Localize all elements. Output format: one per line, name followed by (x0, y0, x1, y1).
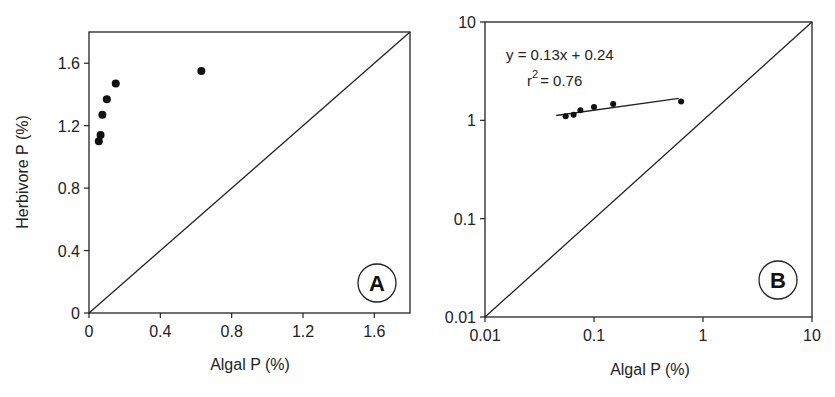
y-tick-label: 0 (71, 305, 80, 322)
data-point (610, 101, 616, 107)
x-tick-label: 0.4 (149, 323, 171, 340)
x-tick-label: 10 (803, 327, 821, 344)
data-point (678, 99, 684, 105)
data-point (112, 80, 120, 88)
x-tick-label: 1.2 (292, 323, 314, 340)
x-tick-label: 0.1 (583, 327, 605, 344)
y-tick-label: 0.4 (58, 243, 80, 260)
x-axis-title: Algal P (%) (210, 356, 290, 373)
y-tick-label: 1 (467, 112, 476, 129)
y-tick-label: 1.2 (58, 118, 80, 135)
y-tick-label: 10 (458, 14, 476, 31)
data-points (563, 99, 684, 120)
data-point (98, 111, 106, 119)
data-points (95, 67, 206, 145)
y-tick-label: 0.1 (454, 211, 476, 228)
data-point (103, 95, 111, 103)
figure: 00.40.81.21.6 00.40.81.21.6 Algal P (%) … (0, 0, 835, 397)
y-tick-label: 0.8 (58, 180, 80, 197)
data-point (197, 67, 205, 75)
y-tick-label: 1.6 (58, 55, 80, 72)
one-to-one-line (485, 22, 812, 317)
data-point (577, 107, 583, 113)
x-axis-title: Algal P (%) (610, 361, 690, 378)
regression-equation: y = 0.13x + 0.24 (506, 46, 614, 63)
data-point (571, 112, 577, 118)
r-squared: r2= 0.76 (527, 68, 582, 89)
data-point (563, 113, 569, 119)
x-tick-label: 1.6 (363, 323, 385, 340)
y-axis-ticks: 0.010.1110 (445, 14, 485, 326)
y-axis-ticks: 00.40.81.21.6 (58, 55, 89, 322)
panel-label: A (369, 271, 385, 296)
x-axis-ticks: 00.40.81.21.6 (85, 313, 386, 340)
x-tick-label: 0 (85, 323, 94, 340)
y-tick-label: 0.01 (445, 309, 476, 326)
data-point (591, 104, 597, 110)
x-tick-label: 0.8 (221, 323, 243, 340)
x-tick-label: 0.01 (469, 327, 500, 344)
y-axis-title: Herbivore P (%) (14, 115, 31, 229)
x-axis-ticks: 0.010.1110 (469, 317, 821, 344)
panel-b: 0.010.1110 0.010.1110 y = 0.13x + 0.24 r… (445, 14, 821, 378)
panel-a: 00.40.81.21.6 00.40.81.21.6 Algal P (%) … (14, 32, 410, 373)
data-point (97, 131, 105, 139)
x-tick-label: 1 (699, 327, 708, 344)
panel-label: B (770, 268, 786, 293)
